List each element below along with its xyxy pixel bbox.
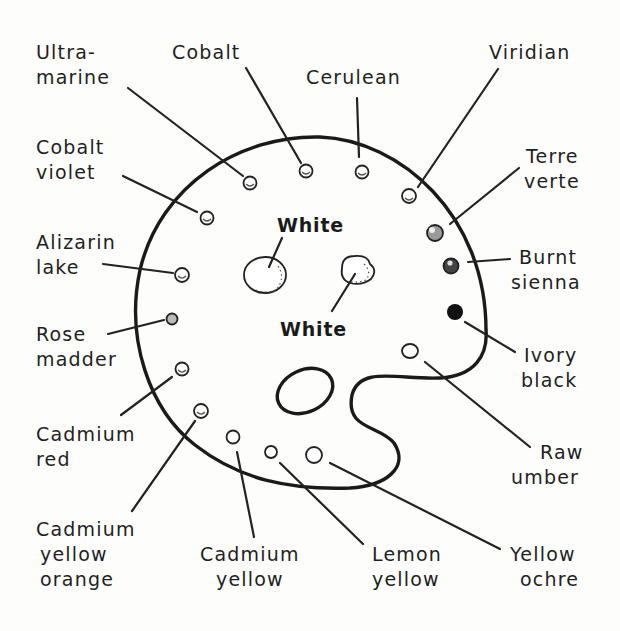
label-rose-madder: Rosemadder [36, 323, 117, 370]
dab-terre-verte [427, 225, 443, 241]
dab-cerulean [356, 166, 369, 179]
label-cadmium-red: Cadmiumred [36, 423, 136, 470]
dab-ultramarine [244, 177, 257, 190]
white-paint-left [244, 257, 286, 293]
pigment-labels: Ultra-marine Cobalt Cerulean Viridian Te… [36, 41, 584, 590]
palette-diagram: White White Ultra-marine Cobalt Cerulean… [0, 0, 620, 631]
dab-alizarin-lake [175, 268, 189, 282]
label-viridian: Viridian [489, 41, 571, 63]
label-cadmium-yellow-orange: Cadmiumyelloworange [36, 518, 136, 590]
label-ultramarine: Ultra-marine [36, 41, 110, 88]
leader-lines [103, 68, 530, 549]
label-ivory-black: Ivoryblack [521, 344, 578, 391]
label-cobalt: Cobalt [172, 41, 241, 63]
dab-ivory-black [447, 304, 463, 320]
label-alizarin-lake: Alizarinlake [36, 231, 116, 278]
white-paint-right [342, 256, 375, 284]
label-white-bottom: White [280, 318, 347, 340]
dab-cadmium-red [176, 363, 189, 376]
label-raw-umber: Rawumber [511, 441, 584, 488]
paint-dabs [167, 165, 464, 464]
dab-rose-madder [167, 314, 178, 325]
label-white-top: White [277, 214, 344, 236]
label-burnt-sienna: Burntsienna [511, 246, 581, 293]
dab-cadmium-yellow-orange [194, 404, 208, 418]
dab-cadmium-yellow [227, 431, 240, 444]
label-cobalt-violet: Cobaltviolet [36, 136, 105, 183]
label-cerulean: Cerulean [306, 66, 401, 88]
dab-yellow-ochre [306, 447, 322, 463]
dab-cobalt-violet [201, 212, 214, 225]
label-yellow-ochre: Yellowochre [509, 543, 579, 590]
label-lemon-yellow: Lemonyellow [372, 543, 442, 590]
dab-viridian [402, 189, 416, 203]
dab-cobalt [300, 165, 313, 178]
label-terre-verte: Terreverte [524, 145, 580, 192]
label-cadmium-yellow: Cadmiumyellow [200, 543, 300, 590]
palette-outline [136, 137, 487, 488]
dab-raw-umber [402, 344, 418, 358]
dab-lemon-yellow [265, 446, 277, 458]
thumb-hole [270, 360, 340, 423]
dab-burnt-sienna [444, 259, 459, 274]
